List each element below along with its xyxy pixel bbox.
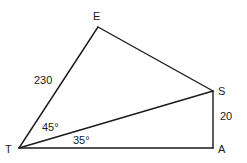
angle-label-sta: 35° xyxy=(73,134,90,146)
geometry-diagram: E S T A 230 20 45° 35° xyxy=(0,0,247,163)
length-label-te: 230 xyxy=(34,74,52,86)
vertex-label-e: E xyxy=(93,10,100,22)
edge-es xyxy=(98,27,213,91)
vertex-label-s: S xyxy=(218,85,225,97)
edge-ts xyxy=(19,91,213,148)
length-label-sa: 20 xyxy=(220,110,232,122)
vertex-label-a: A xyxy=(218,143,226,155)
vertex-label-t: T xyxy=(5,143,12,155)
angle-label-ets: 45° xyxy=(42,121,59,133)
